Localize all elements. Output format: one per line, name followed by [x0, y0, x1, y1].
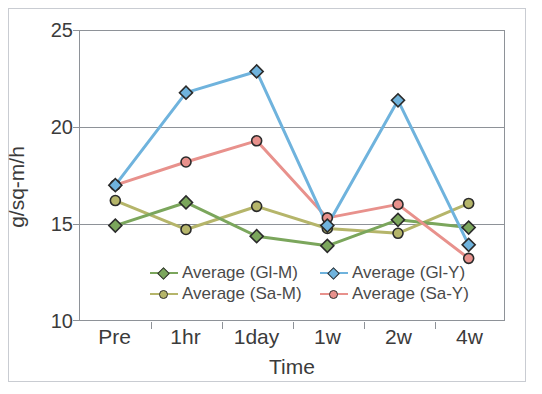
chart-legend: Average (Gl-M) Average (Gl-Y) Average (S… — [150, 262, 490, 304]
y-tick-mark-20 — [73, 127, 80, 128]
legend-label-gl-y: Average (Gl-Y) — [352, 263, 465, 283]
data-point — [462, 238, 475, 251]
data-point — [109, 219, 122, 232]
data-point — [462, 221, 475, 234]
legend-item-gl-y[interactable]: Average (Gl-Y) — [320, 263, 490, 283]
data-point — [464, 198, 474, 208]
x-axis-tick-labels: Pre 1hr 1day 1w 2w 4w — [79, 325, 505, 355]
legend-swatch-sa-m — [150, 287, 178, 301]
data-point — [393, 228, 403, 238]
data-point — [250, 230, 263, 243]
legend-row-1: Average (Gl-M) Average (Gl-Y) — [150, 262, 490, 283]
data-point — [391, 94, 404, 107]
y-axis-title: g/sq-m/h — [5, 82, 29, 292]
x-axis-title: Time — [79, 355, 505, 379]
legend-swatch-gl-y — [320, 266, 348, 280]
chart-figure: 25 20 15 10 g/sq-m/h Pre 1hr 1day 1w 2w … — [0, 0, 542, 394]
series-line-average-gl-m- — [115, 202, 468, 245]
legend-item-sa-m[interactable]: Average (Sa-M) — [150, 284, 320, 304]
data-point — [181, 224, 191, 234]
data-point — [179, 196, 192, 209]
y-tick-label-10: 10 — [5, 311, 73, 331]
y-tick-mark-25 — [73, 30, 80, 31]
y-tick-mark-15 — [73, 224, 80, 225]
legend-swatch-gl-m — [150, 266, 178, 280]
data-point — [250, 65, 263, 78]
x-tick-label-1w: 1w — [292, 325, 363, 355]
data-point — [181, 157, 191, 167]
legend-label-gl-m: Average (Gl-M) — [182, 263, 298, 283]
data-point — [393, 199, 403, 209]
y-tick-mark-10 — [73, 320, 80, 321]
legend-label-sa-y: Average (Sa-Y) — [352, 284, 469, 304]
data-point — [252, 136, 262, 146]
x-tick-label-1day: 1day — [221, 325, 292, 355]
legend-label-sa-m: Average (Sa-M) — [182, 284, 302, 304]
data-point — [391, 213, 404, 226]
y-tick-label-25: 25 — [5, 20, 73, 40]
data-point — [110, 196, 120, 206]
legend-row-2: Average (Sa-M) Average (Sa-Y) — [150, 283, 490, 304]
x-tick-label-4w: 4w — [434, 325, 505, 355]
data-point — [252, 201, 262, 211]
x-tick-label-2w: 2w — [363, 325, 434, 355]
data-point — [321, 239, 334, 252]
legend-item-sa-y[interactable]: Average (Sa-Y) — [320, 284, 490, 304]
legend-swatch-sa-y — [320, 287, 348, 301]
x-tick-label-pre: Pre — [79, 325, 150, 355]
x-tick-label-1hr: 1hr — [150, 325, 221, 355]
legend-item-gl-m[interactable]: Average (Gl-M) — [150, 263, 320, 283]
